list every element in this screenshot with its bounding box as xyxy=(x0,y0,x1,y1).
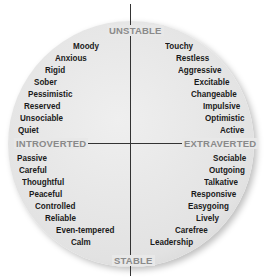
axis-label-stable: STABLE xyxy=(112,255,155,266)
trait-word: Reliable xyxy=(45,212,76,223)
trait-word: Excitable xyxy=(194,76,229,87)
trait-word: Quiet xyxy=(18,124,39,135)
trait-word: Carefree xyxy=(175,224,208,235)
axis-label-extraverted: EXTRAVERTED xyxy=(182,138,258,149)
introversion-axis-line xyxy=(78,143,182,144)
trait-word: Calm xyxy=(71,236,91,247)
trait-word: Careful xyxy=(19,164,47,175)
axis-label-unstable: UNSTABLE xyxy=(107,25,164,36)
trait-word: Pessimistic xyxy=(28,88,72,99)
trait-word: Unsociable xyxy=(20,112,63,123)
trait-word: Controlled xyxy=(35,200,75,211)
trait-word: Lively xyxy=(196,212,219,223)
trait-word: Changeable xyxy=(191,88,237,99)
trait-word: Responsive xyxy=(191,188,236,199)
trait-word: Even-tempered xyxy=(56,224,114,235)
trait-word: Reserved xyxy=(24,100,60,111)
trait-word: Peaceful xyxy=(29,188,62,199)
trait-word: Restless xyxy=(176,52,209,63)
trait-word: Sociable xyxy=(213,152,246,163)
trait-word: Active xyxy=(220,124,244,135)
trait-word: Leadership xyxy=(150,236,193,247)
trait-word: Thoughtful xyxy=(22,176,64,187)
trait-word: Optimistic xyxy=(205,112,244,123)
trait-word: Easygoing xyxy=(188,200,229,211)
trait-word: Outgoing xyxy=(209,164,245,175)
trait-word: Impulsive xyxy=(203,100,240,111)
trait-word: Sober xyxy=(34,76,57,87)
trait-word: Touchy xyxy=(165,40,193,51)
trait-word: Rigid xyxy=(45,64,65,75)
trait-word: Moody xyxy=(73,40,99,51)
trait-word: Anxious xyxy=(55,52,87,63)
trait-word: Aggressive xyxy=(178,64,222,75)
axis-label-introverted: INTROVERTED xyxy=(14,138,88,149)
stability-axis-line xyxy=(130,4,131,276)
trait-word: Passive xyxy=(17,152,47,163)
trait-word: Talkative xyxy=(204,176,238,187)
